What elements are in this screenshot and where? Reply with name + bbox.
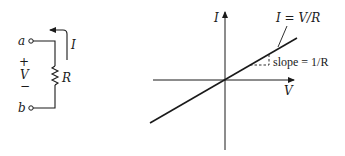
terminal-a-node <box>29 39 33 43</box>
top-wire <box>33 41 55 66</box>
resistor-icon <box>52 66 58 85</box>
bottom-wire <box>33 85 55 108</box>
iv-graph: V I slope = 1/R I = V/R <box>150 11 328 150</box>
terminal-b-node <box>29 106 33 110</box>
terminal-b-label: b <box>18 101 26 115</box>
terminal-a-label: a <box>18 34 25 48</box>
minus-sign: − <box>20 79 30 93</box>
slope-label: slope = 1/R <box>273 55 328 69</box>
resistor-circuit: a R b + V − I <box>18 30 76 115</box>
v-axis-label: V <box>284 84 294 98</box>
i-axis-label: I <box>213 11 219 25</box>
plus-sign: + <box>19 55 29 69</box>
current-label: I <box>70 38 76 52</box>
line-equation-label: I = V/R <box>275 11 320 25</box>
resistor-label: R <box>61 71 71 85</box>
current-arrow-icon <box>50 30 67 60</box>
diagram-canvas: a R b + V − I V I slope = 1/R I = V/R <box>0 0 345 156</box>
